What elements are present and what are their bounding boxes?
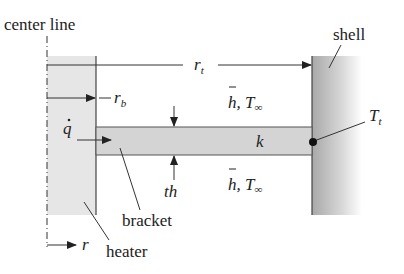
rt-label: rt [194, 55, 205, 76]
heater-region [47, 56, 96, 215]
bracket-fin [96, 127, 312, 155]
k-label: k [256, 132, 264, 151]
shell-region [312, 56, 362, 215]
shell-label: shell [333, 25, 365, 44]
th-label: th [164, 182, 177, 201]
bracket-label: bracket [122, 211, 172, 230]
tt-label: Tt [369, 106, 382, 127]
r-label: r [82, 235, 89, 254]
tt-point [309, 138, 317, 146]
center-line-label: center line [4, 15, 75, 34]
q-dot-mark [68, 119, 71, 122]
heater-label: heater [106, 242, 148, 261]
h-tinf-bottom-label: h, T∞ [228, 175, 262, 195]
h-tinf-top-label: h, T∞ [228, 93, 262, 113]
rb-label: rb [114, 88, 127, 109]
q-dot-label: q [63, 119, 72, 138]
bracket-heater-diagram: center line shell rt rb h, T∞ h, T∞ q k … [0, 0, 404, 274]
bracket-leader [120, 148, 140, 210]
